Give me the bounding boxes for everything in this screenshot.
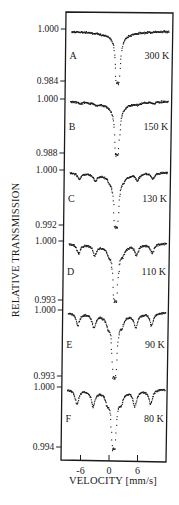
y-tick-label-baseline: 1.000 [33,382,55,392]
plot-frame [61,12,173,462]
panel-temperature-c: 130 K [142,193,168,204]
panel-temperature-b: 150 K [143,121,169,132]
panel-letter-b: B [69,121,76,132]
y-tick-label-min: 0.984 [37,76,59,86]
y-tick-label-baseline: 1.000 [37,94,59,104]
y-axis-ticks: 1.0000.9841.0000.9881.0000.9921.0000.993… [33,24,66,452]
mossbauer-stacked-chart: 1.0000.9841.0000.9881.0000.9921.0000.993… [0,0,179,505]
y-tick-label-min: 0.992 [35,220,57,230]
panel-letter-e: E [66,339,72,350]
x-axis-title: VELOCITY [mm/s] [69,475,157,486]
panel-temperature-d: 110 K [142,266,167,277]
y-tick-label-baseline: 1.000 [37,24,59,34]
spectra-data [67,30,170,451]
panel-temperature-a: 300 K [145,50,171,61]
y-axis-title: RELATIVE TRANSMISSION [10,183,21,318]
panel-labels: A300 KB150 KC130 KD110 KE90 KF80 K [65,50,170,424]
y-tick-label-baseline: 1.000 [35,236,57,246]
panel-letter-c: C [68,193,75,204]
y-tick-label-min: 0.988 [36,148,58,158]
y-tick-label-min: 0.993 [34,371,56,381]
y-tick-label-min: 0.993 [34,295,56,305]
panel-temperature-e: 90 K [145,339,166,350]
y-tick-label-min: 0.994 [33,442,55,452]
panel-letter-f: F [65,413,71,424]
chart-canvas: 1.0000.9841.0000.9881.0000.9921.0000.993… [0,0,179,505]
panel-temperature-f: 80 K [144,413,165,424]
x-axis-ticks: -606 [76,455,140,476]
y-tick-label-baseline: 1.000 [36,165,58,175]
panel-letter-d: D [67,266,74,277]
y-tick-label-baseline: 1.000 [34,305,56,315]
panel-letter-a: A [69,50,77,61]
